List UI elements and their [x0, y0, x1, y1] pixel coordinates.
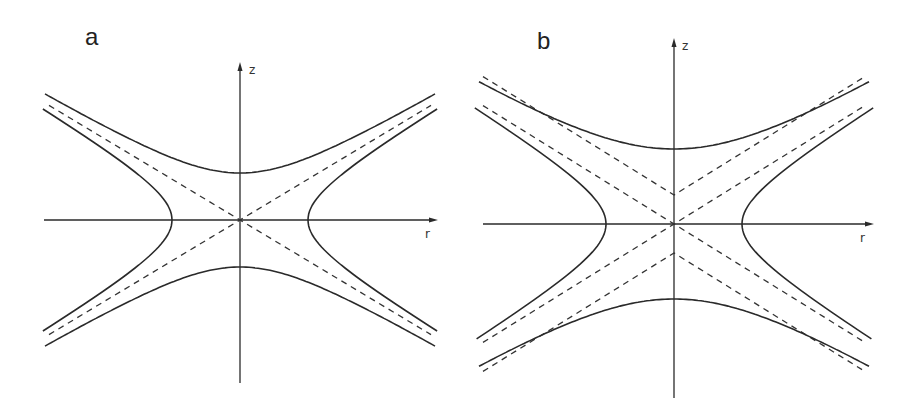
r-axis-arrow-icon [429, 218, 438, 223]
r-axis-label-a: r [425, 227, 430, 241]
r-axis-label-b: r [860, 231, 865, 245]
panel-b: b z r [475, 27, 874, 398]
panel-a: a z r [43, 23, 438, 383]
panel-label-a: a [85, 23, 99, 50]
axes-a [44, 62, 438, 383]
panel-label-b: b [537, 27, 550, 54]
axes-b [483, 38, 874, 398]
z-axis-label-a: z [249, 63, 255, 77]
r-axis-arrow-icon [865, 222, 874, 227]
z-axis-arrow-icon [672, 38, 677, 47]
z-axis-arrow-icon [238, 62, 243, 71]
z-axis-label-b: z [682, 39, 688, 53]
figure-canvas: a z r b z r [0, 0, 912, 417]
hyperboloid-diagram: a z r b z r [0, 0, 912, 417]
